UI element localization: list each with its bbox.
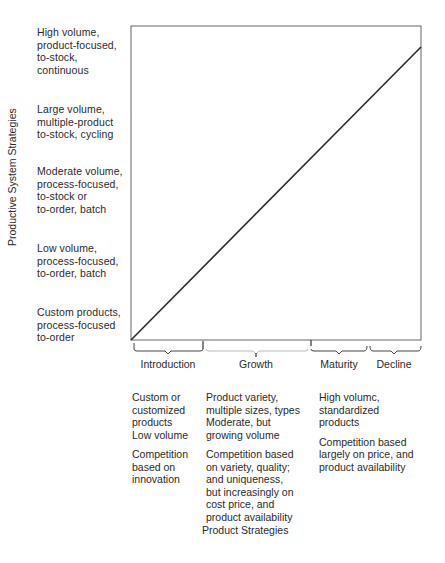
- phase-braces: [134, 343, 421, 354]
- phase-introduction: Introduction: [128, 358, 208, 370]
- level-custom-products: Custom products, process-focused to-orde…: [37, 306, 121, 344]
- phase-ticks: [203, 340, 311, 357]
- growth-product: Product variety, multiple sizes, types M…: [206, 391, 300, 441]
- phase-decline: Decline: [354, 358, 434, 370]
- brace-decline: [370, 346, 421, 354]
- growth-description: Product variety, multiple sizes, types M…: [206, 391, 300, 530]
- level-large-volume: Large volume, multiple-product to-stock,…: [37, 103, 113, 141]
- maturity-description: High volumc, standardized products Compe…: [319, 391, 414, 480]
- brace-introduction: [134, 343, 203, 354]
- introduction-product: Custom or customized products Low volume: [132, 391, 188, 441]
- phase-growth: Growth: [216, 358, 296, 370]
- introduction-description: Custom or customized products Low volume…: [132, 391, 188, 493]
- brace-growth: [206, 349, 308, 354]
- level-moderate-volume: Moderate volume, process-focused, to-sto…: [37, 165, 123, 215]
- maturity-competition: Competition based largely on price, and …: [319, 436, 414, 474]
- level-low-volume: Low volume, process-focused, to-order, b…: [37, 242, 119, 280]
- y-axis-title: Productive System Strategies: [6, 116, 18, 246]
- level-high-volume: High volume, product-focused, to-stock, …: [37, 26, 117, 76]
- diagonal-strategy-line: [131, 47, 421, 340]
- introduction-competition: Competition based on innovation: [132, 448, 188, 486]
- brace-maturity: [311, 346, 367, 354]
- plot-frame: [131, 26, 421, 340]
- x-axis-title: Product Strategies: [202, 524, 288, 536]
- growth-competition: Competition based on variety, quality; a…: [206, 448, 300, 523]
- maturity-product: High volumc, standardized products: [319, 391, 414, 429]
